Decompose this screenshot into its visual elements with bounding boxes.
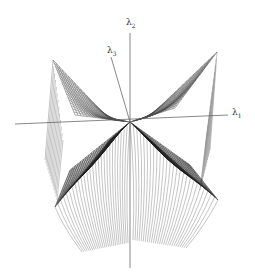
axis-subscript: 2 — [132, 22, 136, 29]
surface-plot — [0, 0, 255, 277]
axis-label-horizontal: λ1 — [232, 108, 242, 119]
axis-subscript: 3 — [113, 50, 117, 57]
axis-subscript: 1 — [238, 112, 242, 119]
axis-horizontal — [15, 115, 228, 124]
axis-label-vertical: λ2 — [126, 18, 136, 29]
axis-label-diagonal: λ3 — [107, 46, 117, 57]
axis-diagonal — [111, 57, 130, 122]
